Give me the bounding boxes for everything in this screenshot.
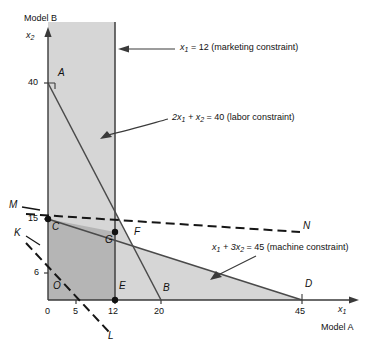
point-label-E: E: [119, 281, 126, 291]
annotation-machine-text: = 45 (machine constraint): [244, 242, 348, 252]
leader-K: [26, 236, 40, 245]
point-label-K: K: [14, 228, 21, 238]
x-tick-label-45: 45: [295, 307, 305, 316]
point-label-N: N: [303, 221, 310, 231]
x-tick-label-20: 20: [154, 307, 164, 316]
point-label-O: O: [53, 281, 61, 291]
x-tick-label-5: 5: [73, 307, 78, 316]
x-axis-symbol: x1: [338, 305, 346, 315]
annotation-marketing-text: = 12 (marketing constraint): [188, 42, 298, 52]
leader-machine: [218, 256, 256, 275]
annotation-machine-constraint: x1 + 3x2 = 45 (machine constraint): [212, 243, 348, 253]
lp-graph-figure: Model B x2 x1 Model A 40 15 6 0 5 12 20 …: [0, 0, 378, 354]
point-label-L: L: [108, 331, 114, 341]
y-tick-label-15: 15: [28, 214, 38, 223]
point-label-C: C: [52, 222, 59, 232]
x-axis-title: Model A: [321, 323, 354, 332]
y-tick-label-6: 6: [34, 268, 39, 277]
annotation-labor-constraint: 2x1 + x2 = 40 (labor constraint): [172, 113, 294, 123]
point-label-F: F: [134, 227, 140, 237]
point-label-B: B: [163, 283, 170, 293]
annotation-labor-text: = 40 (labor constraint): [204, 112, 294, 122]
vertex-dot-C: [45, 216, 51, 222]
point-label-A: A: [58, 68, 65, 78]
y-tick-label-40: 40: [28, 78, 38, 87]
y-axis-title: Model B: [24, 14, 57, 23]
leader-marketing-arrow: [118, 46, 129, 53]
shaded-regions: [48, 22, 302, 300]
x-axis-arrow: [349, 296, 359, 303]
lp-graph-svg: [0, 0, 378, 354]
leader-M: [22, 207, 40, 210]
annotation-marketing-constraint: x1 = 12 (marketing constraint): [180, 43, 298, 53]
point-label-M: M: [9, 200, 17, 210]
point-label-G: G: [105, 235, 113, 245]
x-tick-label-12: 12: [108, 307, 118, 316]
vertex-dot-E: [112, 297, 118, 303]
point-label-D: D: [305, 279, 312, 289]
leader-labor: [108, 119, 168, 135]
x-tick-label-0: 0: [45, 307, 50, 316]
y-axis-symbol: x2: [26, 31, 34, 41]
